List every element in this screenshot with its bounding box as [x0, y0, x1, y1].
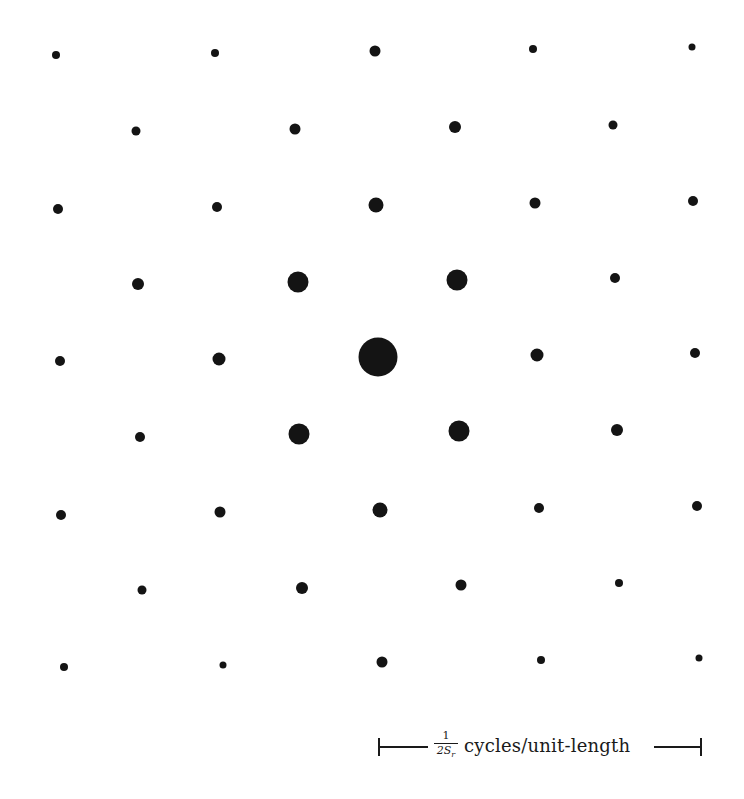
lattice-dot [534, 503, 544, 513]
lattice-dot [52, 51, 60, 59]
lattice-dot [696, 655, 703, 662]
lattice-dot [211, 49, 219, 57]
lattice-dot [135, 432, 145, 442]
lattice-dot [615, 579, 623, 587]
lattice-dot [692, 501, 702, 511]
lattice-dot [377, 657, 388, 668]
lattice-dot [288, 272, 309, 293]
lattice-dot [529, 45, 537, 53]
lattice-dot [215, 507, 226, 518]
dot-lattice [0, 0, 744, 799]
lattice-dot [53, 204, 63, 214]
lattice-dot [132, 278, 144, 290]
lattice-dot [213, 353, 226, 366]
lattice-dot [688, 196, 698, 206]
scale-bar-right-tick [700, 738, 702, 756]
lattice-dot [290, 124, 301, 135]
lattice-dot [530, 198, 541, 209]
fraction-numerator: 1 [434, 730, 458, 744]
lattice-dot [611, 424, 623, 436]
lattice-dot [212, 202, 222, 212]
lattice-dot [449, 421, 470, 442]
scale-bar-label: cycles/unit-length [464, 735, 630, 756]
lattice-dot [610, 273, 620, 283]
lattice-dot [531, 349, 544, 362]
lattice-dot [359, 338, 398, 377]
lattice-dot [370, 46, 381, 57]
lattice-dot [690, 348, 700, 358]
scale-bar: 1 2Sr cycles/unit-length [378, 730, 704, 766]
lattice-dot [56, 510, 66, 520]
lattice-dot [132, 127, 141, 136]
lattice-dot [456, 580, 467, 591]
lattice-dot [296, 582, 308, 594]
lattice-dot [369, 198, 384, 213]
scale-bar-right-line [654, 746, 702, 748]
lattice-dot [373, 503, 388, 518]
denominator-subscript: r [451, 750, 455, 759]
lattice-dot [138, 586, 147, 595]
fraction-denominator: 2Sr [434, 744, 458, 761]
scale-bar-left-line [378, 746, 428, 748]
lattice-dot [55, 356, 65, 366]
lattice-dot [449, 121, 461, 133]
lattice-dot [537, 656, 545, 664]
lattice-dot [447, 270, 468, 291]
lattice-dot [289, 424, 310, 445]
lattice-dot [609, 121, 618, 130]
denominator-text: 2S [437, 744, 452, 757]
scale-fraction: 1 2Sr [434, 730, 458, 761]
lattice-dot [220, 662, 227, 669]
lattice-dot [689, 44, 696, 51]
lattice-dot [60, 663, 68, 671]
